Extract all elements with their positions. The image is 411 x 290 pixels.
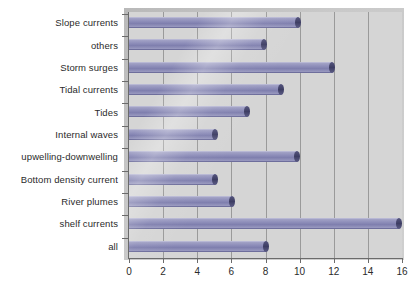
bar-end-cap: [294, 151, 300, 162]
bar-row: [129, 169, 402, 191]
bar-slope-currents: [129, 17, 298, 28]
bar-row: [129, 213, 402, 235]
x-axis-label-14: 14: [355, 266, 381, 277]
bar-end-cap: [329, 62, 335, 73]
bar-row: [129, 191, 402, 213]
category-label-all: all: [108, 241, 118, 253]
bar-row: [129, 236, 402, 258]
y-axis-tick: [122, 36, 128, 37]
y-axis-tick: [122, 171, 128, 172]
y-axis-tick: [122, 14, 128, 15]
category-label-river-plumes: River plumes: [61, 196, 118, 208]
x-axis-label-6: 6: [218, 266, 244, 277]
bar-row: [129, 57, 402, 79]
bar-end-cap: [229, 196, 235, 207]
bar-tides: [129, 106, 247, 117]
bar-end-cap: [295, 17, 301, 28]
y-axis-tick: [122, 103, 128, 104]
plot-area: [129, 12, 402, 258]
bar-end-cap: [212, 129, 218, 140]
bar-row: [129, 101, 402, 123]
bar-others: [129, 39, 264, 50]
bar-internal-waves: [129, 129, 215, 140]
bar-bottom-density-current: [129, 174, 215, 185]
x-axis-label-2: 2: [150, 266, 176, 277]
bar-end-cap: [212, 174, 218, 185]
bar-end-cap: [261, 39, 267, 50]
x-axis-tick-10: [300, 258, 301, 263]
category-label-storm-surges: Storm surges: [60, 62, 118, 74]
y-axis-line: [128, 12, 129, 259]
category-label-tidal-currents: Tidal currents: [59, 84, 118, 96]
bar-row: [129, 34, 402, 56]
x-axis-label-4: 4: [184, 266, 210, 277]
x-axis-tick-8: [266, 258, 267, 263]
category-label-shelf-currents: shelf currents: [60, 218, 118, 230]
y-axis-tick: [122, 126, 128, 127]
bar-end-cap: [278, 84, 284, 95]
bar-row: [129, 124, 402, 146]
x-axis-label-0: 0: [116, 266, 142, 277]
y-axis-tick: [122, 148, 128, 149]
x-axis-tick-6: [231, 258, 232, 263]
bar-all: [129, 241, 266, 252]
bar-tidal-currents: [129, 84, 281, 95]
bar-row: [129, 79, 402, 101]
x-axis-tick-14: [368, 258, 369, 263]
x-axis-tick-16: [402, 258, 403, 263]
bar-shelf-currents: [129, 218, 399, 229]
category-label-upwelling-downwelling: upwelling-downwelling: [21, 151, 118, 163]
category-label-internal-waves: Internal waves: [55, 129, 118, 141]
y-axis-tick: [122, 81, 128, 82]
x-axis-tick-2: [163, 258, 164, 263]
category-label-slope-currents: Slope currents: [55, 17, 118, 29]
x-axis-tick-12: [334, 258, 335, 263]
category-label-tides: Tides: [95, 107, 118, 119]
category-label-bottom-density-current: Bottom density current: [21, 174, 118, 186]
x-axis-label-12: 12: [321, 266, 347, 277]
x-axis-label-16: 16: [389, 266, 411, 277]
x-axis-label-10: 10: [287, 266, 313, 277]
bar-river-plumes: [129, 196, 232, 207]
bar-row: [129, 12, 402, 34]
category-axis-labels: Slope currentsothersStorm surgesTidal cu…: [0, 12, 122, 258]
x-axis-tick-0: [129, 258, 130, 263]
y-axis-tick: [122, 215, 128, 216]
x-axis-tick-4: [197, 258, 198, 263]
y-axis-tick: [122, 193, 128, 194]
bar-end-cap: [396, 218, 402, 229]
category-label-others: others: [91, 40, 118, 52]
bar-row: [129, 146, 402, 168]
bar-end-cap: [263, 241, 269, 252]
x-axis-label-8: 8: [253, 266, 279, 277]
bar-end-cap: [244, 106, 250, 117]
y-axis-tick: [122, 238, 128, 239]
bar-chart: Slope currentsothersStorm surgesTidal cu…: [0, 0, 411, 290]
bar-storm-surges: [129, 62, 332, 73]
bar-upwelling-downwelling: [129, 151, 297, 162]
y-axis-tick: [122, 59, 128, 60]
